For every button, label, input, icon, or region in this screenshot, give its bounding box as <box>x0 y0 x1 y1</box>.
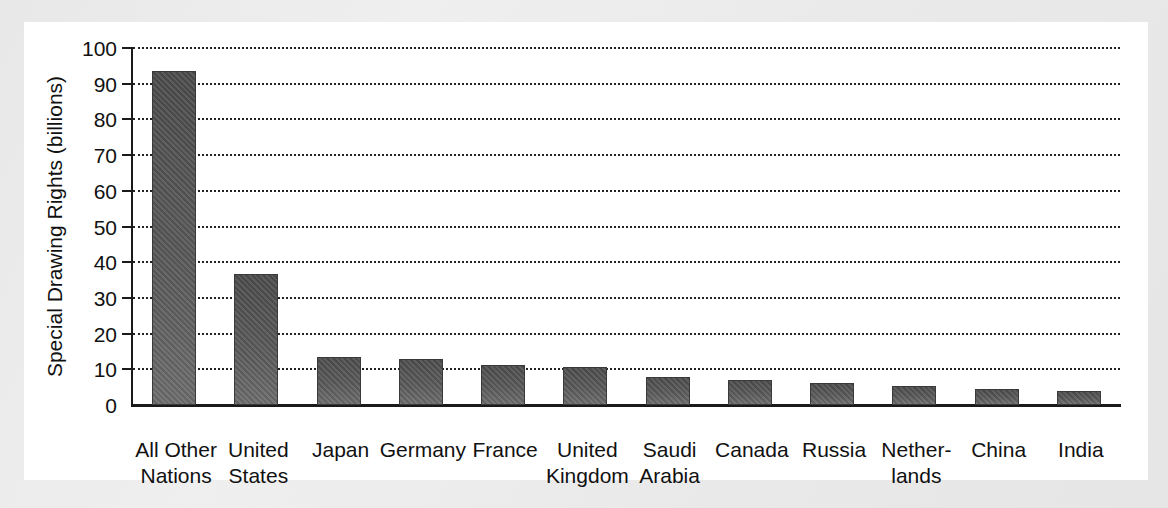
y-tick-mark <box>122 47 133 49</box>
bar-slot <box>133 48 215 405</box>
bar[interactable] <box>152 71 196 405</box>
x-axis-category-label: India <box>1028 437 1134 463</box>
bar[interactable] <box>1057 391 1101 405</box>
bar[interactable] <box>563 367 607 405</box>
y-tick-mark <box>122 297 133 299</box>
y-tick-mark <box>122 333 133 335</box>
bar-slot <box>215 48 297 405</box>
bar[interactable] <box>317 357 361 405</box>
y-axis-title-label: Special Drawing Rights (billions) <box>45 76 66 377</box>
y-tick-label: 80 <box>94 109 117 130</box>
bar-slot <box>1038 48 1120 405</box>
y-tick-mark <box>122 118 133 120</box>
y-tick-label: 10 <box>94 359 117 380</box>
bar-slot <box>380 48 462 405</box>
y-axis-title: Special Drawing Rights (billions) <box>40 48 70 405</box>
plot-area: 0102030405060708090100 <box>131 48 1120 405</box>
bar-slot <box>298 48 380 405</box>
bar[interactable] <box>975 389 1019 405</box>
y-tick-label: 90 <box>94 73 117 94</box>
y-tick-label: 100 <box>82 38 117 59</box>
figure-root: Special Drawing Rights (billions) 010203… <box>0 0 1168 508</box>
bar[interactable] <box>728 380 772 405</box>
y-tick-mark <box>122 261 133 263</box>
bar[interactable] <box>810 383 854 405</box>
y-tick-mark <box>122 368 133 370</box>
chart-panel: Special Drawing Rights (billions) 010203… <box>24 22 1148 480</box>
bar[interactable] <box>399 359 443 405</box>
x-axis-labels: All Other NationsUnited StatesJapanGerma… <box>133 437 1122 497</box>
y-tick-label: 50 <box>94 216 117 237</box>
bar[interactable] <box>646 377 690 405</box>
y-tick-label: 70 <box>94 145 117 166</box>
y-tick-mark <box>122 226 133 228</box>
bar[interactable] <box>892 386 936 405</box>
y-tick-label: 60 <box>94 180 117 201</box>
y-tick-mark <box>122 190 133 192</box>
bar-slot <box>544 48 626 405</box>
bar-slot <box>791 48 873 405</box>
y-tick-mark <box>122 83 133 85</box>
bar-slot <box>709 48 791 405</box>
y-tick-mark <box>122 154 133 156</box>
bar-slot <box>462 48 544 405</box>
bar[interactable] <box>481 365 525 405</box>
bar-slot <box>873 48 955 405</box>
y-tick-label: 30 <box>94 287 117 308</box>
y-tick-label: 20 <box>94 323 117 344</box>
y-tick-label: 40 <box>94 252 117 273</box>
bar-slot <box>627 48 709 405</box>
bar-slot <box>956 48 1038 405</box>
bars-layer <box>133 48 1120 405</box>
bar[interactable] <box>234 274 278 405</box>
y-tick-label: 0 <box>105 395 117 416</box>
